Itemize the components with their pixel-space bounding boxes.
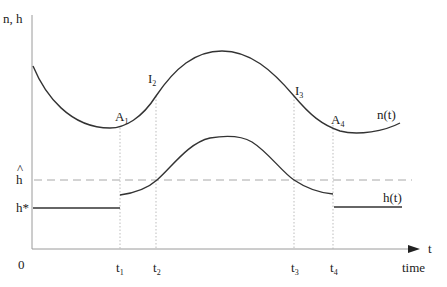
t4-label: t4 [330, 260, 338, 277]
h-hat-label: h [16, 172, 23, 187]
x-axis-caption: time [402, 260, 425, 275]
x-axis-label: t [428, 241, 432, 256]
origin-label: 0 [18, 257, 25, 272]
n-curve [33, 51, 400, 133]
h-curve-label: h(t) [383, 190, 402, 205]
t3-label: t3 [291, 260, 299, 277]
point-i2-label: I2 [148, 71, 156, 88]
x-axis-arrow-icon [408, 245, 420, 253]
point-i3-label: I3 [295, 83, 303, 100]
t2-label: t2 [153, 260, 161, 277]
point-a4-label: A4 [331, 112, 344, 129]
h-star-label: h* [16, 200, 29, 215]
y-axis-label: n, h [3, 11, 23, 26]
point-a1-label: A1 [115, 109, 128, 126]
diagram: n, h t time 0 ^ h h* A1 I2 I3 A4 n(t) h(… [0, 0, 447, 287]
n-curve-label: n(t) [377, 107, 396, 122]
h-curve-middle [120, 137, 333, 195]
t1-label: t1 [116, 260, 124, 277]
